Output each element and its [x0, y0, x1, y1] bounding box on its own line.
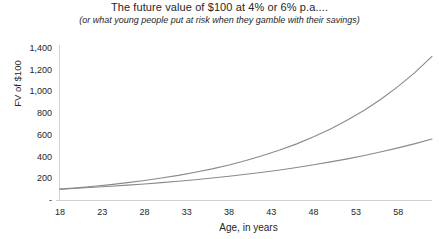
x-axis-tick-label: 43 — [256, 207, 286, 217]
chart-plot-area — [0, 0, 439, 239]
x-axis-tick-label: 18 — [45, 207, 75, 217]
x-axis-tick-label: 48 — [299, 207, 329, 217]
line-series-4-percent — [60, 139, 432, 189]
x-axis-tick-label: 33 — [172, 207, 202, 217]
x-axis-tick-labels: 182328333843485358 — [0, 207, 439, 219]
x-axis-tick-label: 58 — [383, 207, 413, 217]
x-axis-tick-label: 38 — [214, 207, 244, 217]
line-series-6-percent — [60, 56, 432, 189]
x-axis-label: Age, in years — [58, 222, 439, 233]
x-axis-tick-label: 53 — [341, 207, 371, 217]
x-axis-tick-label: 23 — [87, 207, 117, 217]
chart-container: The future value of $100 at 4% or 6% p.a… — [0, 0, 439, 239]
x-axis-tick-label: 28 — [130, 207, 160, 217]
